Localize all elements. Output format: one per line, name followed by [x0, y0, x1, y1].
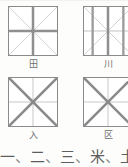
- cell-label-0: 田: [8, 58, 58, 70]
- cell-item-2[interactable]: 入: [8, 77, 66, 141]
- practice-cell-box-0[interactable]: [8, 6, 58, 56]
- cell-label-3: 区: [83, 129, 128, 141]
- cell-item-0[interactable]: 田: [8, 6, 66, 70]
- practice-grid-page: 田 川: [0, 0, 128, 167]
- cell-item-1[interactable]: 川: [83, 6, 128, 70]
- example-character-4: 土: [120, 148, 128, 166]
- practice-cell-box-1[interactable]: [83, 6, 128, 56]
- example-separator-1: 、: [45, 148, 60, 166]
- practice-cell-box-3[interactable]: [83, 77, 128, 127]
- character-cell-grid: 田 川: [0, 0, 128, 146]
- cell-label-1: 川: [83, 58, 128, 70]
- practice-cell-box-2[interactable]: [8, 77, 58, 127]
- cell-item-3[interactable]: 区: [83, 77, 128, 141]
- example-character-0: 一: [0, 148, 15, 166]
- example-separator-2: 、: [75, 148, 90, 166]
- example-character-2: 三: [60, 148, 75, 166]
- cell-label-2: 入: [8, 129, 58, 141]
- mi-zi-ge-guides-1: [84, 7, 128, 55]
- example-character-1: 二: [30, 148, 45, 166]
- example-character-strip: 一、二、三、米、土、口: [0, 147, 128, 167]
- mi-zi-ge-guides-2: [9, 78, 57, 126]
- mi-zi-ge-guides-3: [84, 78, 128, 126]
- mi-zi-ge-guides-0: [9, 7, 57, 55]
- example-character-3: 米: [90, 148, 105, 166]
- example-separator-3: 、: [105, 148, 120, 166]
- example-separator-0: 、: [15, 148, 30, 166]
